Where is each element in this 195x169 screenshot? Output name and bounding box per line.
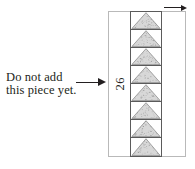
right-blank-strip (162, 12, 185, 156)
triangle-piece (131, 12, 161, 30)
pattern-diagram: Do not add this piece yet. 26 (0, 0, 195, 169)
triangle-piece (131, 84, 161, 102)
right-arrow-icon (181, 5, 187, 11)
left-strip-label-text: 26 (113, 77, 128, 91)
triangle-piece (131, 66, 161, 84)
annotation-line-2: this piece yet. (6, 84, 88, 97)
triangle-column (130, 11, 162, 157)
left-strip-label: 26 (109, 12, 131, 156)
triangle-piece (131, 48, 161, 66)
triangle-piece (131, 138, 161, 156)
triangle-piece (131, 30, 161, 48)
annotation-text: Do not add this piece yet. (6, 71, 88, 97)
triangle-piece (131, 102, 161, 120)
triangle-piece (131, 120, 161, 138)
right-arrow-icon (98, 78, 106, 86)
